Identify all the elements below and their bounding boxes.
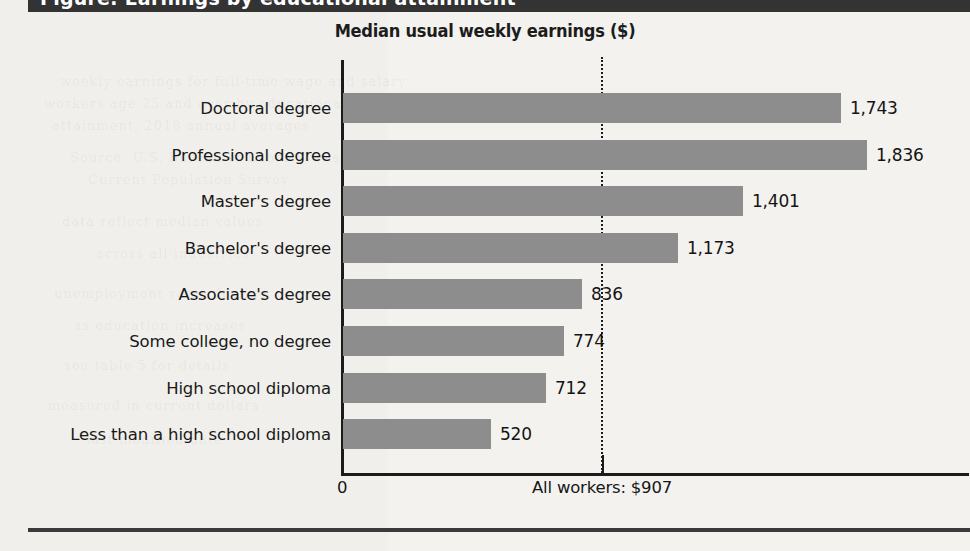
bar-category-label: Associate's degree (179, 285, 331, 304)
bar-category-label: Professional degree (172, 145, 331, 164)
section-header-title: Figure: Earnings by educational attainme… (40, 0, 516, 9)
bar-category-label: Bachelor's degree (185, 238, 331, 257)
bar (343, 140, 867, 170)
bar (343, 233, 678, 263)
reference-line-label: All workers: $907 (532, 478, 672, 497)
bar-row: Bachelor's degree1,173 (0, 233, 970, 263)
bar-category-label: Doctoral degree (200, 99, 331, 118)
bar-row: Doctoral degree1,743 (0, 93, 970, 123)
bar-value-label: 520 (500, 424, 532, 444)
section-header-band: Figure: Earnings by educational attainme… (28, 0, 970, 12)
bar (343, 326, 564, 356)
bar (343, 373, 546, 403)
bar-row: Master's degree1,401 (0, 186, 970, 216)
bar-category-label: Less than a high school diploma (70, 425, 331, 444)
bar-value-label: 836 (591, 284, 623, 304)
bar-category-label: High school diploma (166, 378, 331, 397)
bar-row: Less than a high school diploma520 (0, 419, 970, 449)
bar-value-label: 712 (555, 378, 587, 398)
bar (343, 419, 491, 449)
bar-value-label: 1,836 (876, 145, 924, 165)
bar-row: Some college, no degree774 (0, 326, 970, 356)
bar (343, 279, 582, 309)
bar-category-label: Some college, no degree (129, 332, 331, 351)
bar (343, 93, 841, 123)
bar (343, 186, 743, 216)
x-axis-line (341, 473, 969, 476)
bottom-divider-rule (28, 528, 970, 532)
reference-line-tick (602, 455, 604, 475)
bar-row: High school diploma712 (0, 373, 970, 403)
bar-category-label: Master's degree (201, 192, 331, 211)
chart-title: Median usual weekly earnings ($) (34, 21, 936, 41)
x-axis-zero-label: 0 (337, 478, 348, 497)
bar-value-label: 1,743 (850, 98, 898, 118)
chart-plot-area: Doctoral degree1,743Professional degree1… (0, 55, 970, 475)
bar-row: Professional degree1,836 (0, 140, 970, 170)
bar-row: Associate's degree836 (0, 279, 970, 309)
bar-value-label: 774 (573, 331, 605, 351)
bar-value-label: 1,401 (752, 191, 800, 211)
bar-value-label: 1,173 (687, 238, 735, 258)
